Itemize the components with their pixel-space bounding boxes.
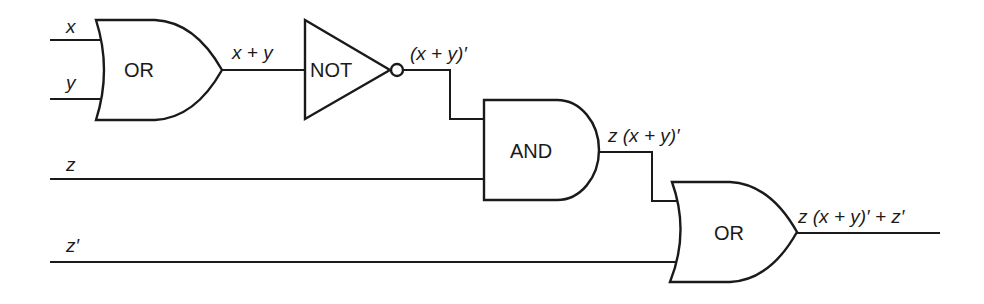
- wire-not-out: [403, 70, 484, 119]
- or-gate-1-label: OR: [124, 59, 154, 81]
- label-or1-output: x + y: [231, 42, 274, 63]
- or-gate-1: OR: [96, 20, 222, 120]
- label-z: z: [65, 154, 76, 175]
- label-x: x: [65, 16, 77, 37]
- not-gate-label: NOT: [310, 59, 352, 81]
- not-bubble: [391, 64, 403, 76]
- and-gate: AND: [484, 100, 599, 200]
- or-gate-2: OR: [670, 182, 797, 282]
- not-gate: NOT: [305, 20, 403, 119]
- or-gate-2-label: OR: [714, 222, 744, 244]
- logic-circuit-diagram: OR NOT AND OR x y z z′ x + y (x + y)′ z …: [0, 0, 984, 304]
- and-gate-label: AND: [510, 140, 552, 162]
- label-and-output: z (x + y)′: [607, 125, 681, 146]
- label-or2-output: z (x + y)′ + z′: [797, 206, 906, 227]
- label-not-output: (x + y)′: [410, 43, 468, 64]
- label-y: y: [64, 72, 77, 93]
- label-z-prime: z′: [65, 235, 81, 256]
- or-gate-1-shape: [96, 20, 222, 120]
- wire-and-out: [598, 152, 677, 201]
